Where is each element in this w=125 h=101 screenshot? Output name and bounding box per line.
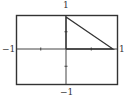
plot-area <box>0 0 125 101</box>
triangle-line <box>66 17 113 49</box>
y-max-label: 1 <box>63 1 69 10</box>
x-max-label: 1 <box>119 45 125 54</box>
x-min-label: −1 <box>2 45 15 54</box>
y-min-label: −1 <box>60 88 73 97</box>
plot-frame <box>17 16 118 85</box>
